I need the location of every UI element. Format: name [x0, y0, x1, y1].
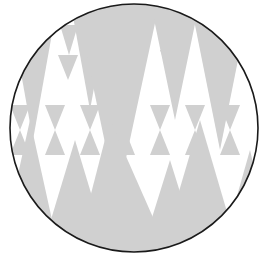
triangle-pattern: [0, 0, 269, 256]
pattern-svg: [0, 0, 269, 256]
circular-triangle-pattern-illustration: [0, 0, 269, 256]
